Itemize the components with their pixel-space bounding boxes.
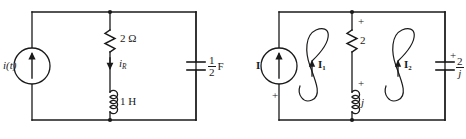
left-capacitor-unit: F	[218, 61, 224, 72]
right-resistor-symbol	[347, 30, 357, 52]
mesh-current-1-subscript: 1	[322, 64, 325, 71]
right-resistor-label: 2	[360, 35, 366, 46]
right-source-label: I	[256, 60, 260, 71]
left-current-source	[14, 48, 50, 84]
left-branch-current-label: iR	[119, 58, 127, 71]
right-capacitor-denominator: j	[456, 68, 464, 79]
right-inductor-polarity-marker: +	[358, 78, 364, 89]
left-node-bottom	[108, 118, 112, 122]
circuit-figure: i(t) 2 Ω iR 1 H 1 2 F I + I1 I2 + 2 + j …	[0, 0, 466, 139]
left-capacitor-fraction: 1 2	[208, 55, 216, 78]
right-source-polarity-marker: +	[272, 90, 278, 101]
left-resistor-label: 2 Ω	[120, 33, 136, 44]
right-capacitor-label: 2 j	[456, 56, 464, 79]
left-resistor-symbol	[105, 30, 115, 52]
left-inductor-label: 1 H	[120, 96, 136, 107]
mesh-current-1-label: I1	[318, 59, 326, 72]
right-node-top	[350, 10, 354, 14]
left-capacitor-denominator: 2	[208, 67, 216, 78]
left-source-label: i(t)	[3, 60, 16, 71]
circuit-vector-layer	[0, 0, 466, 139]
right-node-bottom	[350, 118, 354, 122]
right-inductor-label: j	[361, 97, 364, 108]
right-resistor-polarity-marker: +	[358, 16, 364, 27]
mesh-current-2-subscript: 2	[408, 64, 411, 71]
right-capacitor-fraction: 2 j	[456, 56, 464, 79]
left-inductor-symbol	[110, 90, 118, 113]
right-current-source	[261, 48, 297, 84]
branch-current-subscript: R	[122, 63, 126, 71]
right-inductor-symbol	[352, 90, 360, 113]
left-capacitor-label: 1 2 F	[208, 55, 224, 78]
left-branch-current-arrow	[107, 58, 114, 70]
left-node-top	[108, 10, 112, 14]
mesh-current-2-label: I2	[404, 59, 412, 72]
